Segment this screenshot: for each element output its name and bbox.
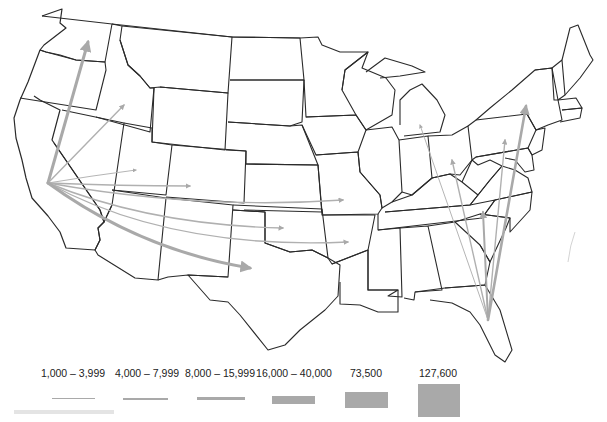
legend-label-3: 8,000 – 15,999 [185,367,255,379]
legend-swatch-4 [272,396,315,404]
legend-label-2: 4,000 – 7,999 [115,367,179,379]
legend-swatch-2 [123,398,168,400]
legend-label-6: 127,600 [419,367,457,379]
legend-label-1: 1,000 – 3,999 [41,367,105,379]
legend-label-5: 73,500 [350,367,382,379]
faded-caption [14,410,114,414]
legend-swatch-1 [52,398,95,399]
legend-swatch-3 [197,397,245,400]
legend-swatch-6 [418,384,460,417]
legend: 1,000 – 3,999 4,000 – 7,999 8,000 – 15,9… [0,0,607,422]
legend-label-4: 16,000 – 40,000 [256,367,332,379]
legend-swatch-5 [345,392,388,408]
